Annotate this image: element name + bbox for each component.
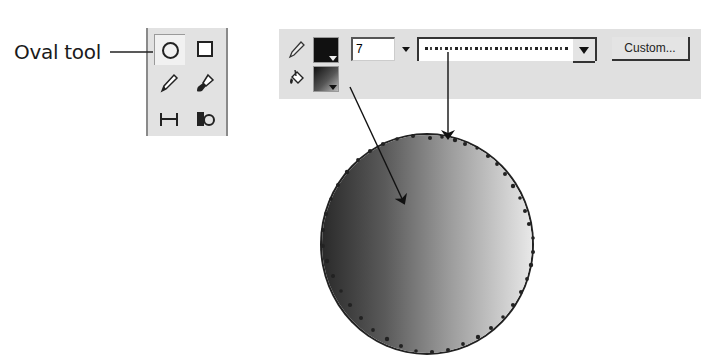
- annotation-arrows: [0, 0, 705, 356]
- stippled-stroke: [321, 134, 535, 354]
- fill-arrow: [350, 87, 404, 203]
